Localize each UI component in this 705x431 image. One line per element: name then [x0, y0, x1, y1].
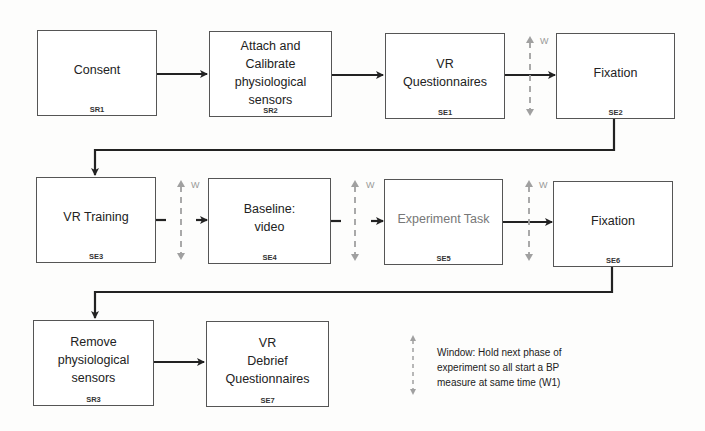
connector-se2-se3 — [95, 117, 614, 175]
window-arrow-se4-se5 — [351, 180, 359, 261]
node-vr-questionnaires: VR Questionnaires SE1 — [385, 33, 505, 119]
window-arrow-se3-se4 — [177, 180, 185, 260]
node-code: SR1 — [38, 105, 156, 115]
node-code: SE4 — [209, 253, 330, 263]
node-label: Baseline: video — [244, 200, 295, 236]
legend-window-description: Window: Hold next phase of experiment so… — [437, 345, 607, 390]
window-label: W — [539, 180, 548, 190]
connector-se6-sr3 — [95, 263, 612, 318]
node-code: SE2 — [557, 108, 674, 118]
window-label: W — [540, 36, 549, 46]
node-label: VR Training — [63, 208, 128, 226]
node-code: SE1 — [386, 108, 504, 118]
node-code: SE6 — [554, 256, 672, 266]
window-arrow-se5-se6 — [525, 180, 533, 261]
window-label: W — [191, 180, 200, 190]
node-label: Fixation — [594, 64, 638, 82]
node-label: VR Questionnaires — [403, 55, 487, 91]
node-remove-sensors: Remove physiological sensors SR3 — [33, 320, 154, 406]
node-code: SR2 — [210, 106, 331, 116]
node-experiment-task: Experiment Task SE5 — [384, 179, 503, 265]
window-label: W — [366, 180, 375, 190]
node-fixation-1: Fixation SE2 — [556, 33, 675, 119]
node-code: SE7 — [207, 396, 328, 406]
node-label: Attach and Calibrate physiological senso… — [235, 37, 307, 109]
node-label: Experiment Task — [397, 210, 489, 228]
node-code: SE5 — [385, 254, 502, 264]
node-attach-calibrate-sensors: Attach and Calibrate physiological senso… — [209, 31, 332, 117]
node-consent: Consent SR1 — [37, 30, 157, 116]
node-code: SR3 — [34, 395, 153, 405]
node-label: Consent — [74, 61, 121, 79]
window-arrow-legend — [410, 335, 416, 395]
node-vr-training: VR Training SE3 — [36, 177, 156, 263]
node-fixation-2: Fixation SE6 — [553, 181, 673, 267]
node-label: Fixation — [591, 212, 635, 230]
node-baseline-video: Baseline: video SE4 — [208, 178, 331, 264]
node-vr-debrief-questionnaires: VR Debrief Questionnaires SE7 — [206, 321, 329, 407]
node-label: Remove physiological sensors — [58, 333, 130, 387]
node-code: SE3 — [37, 252, 155, 262]
node-label: VR Debrief Questionnaires — [225, 334, 309, 388]
